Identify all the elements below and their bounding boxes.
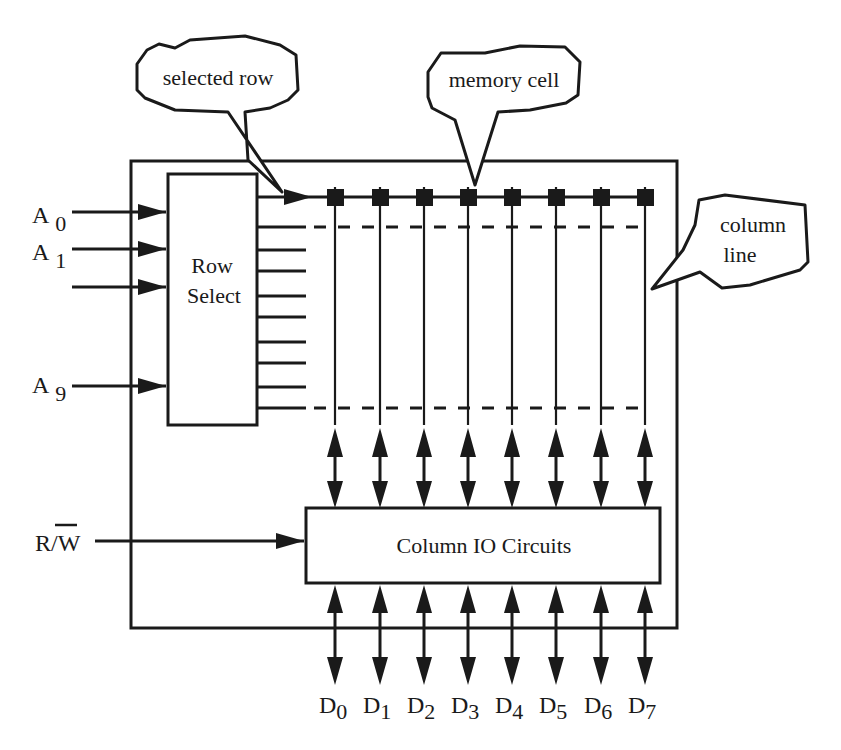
bidir-arrow-icon bbox=[460, 585, 476, 685]
arrow-icon bbox=[138, 204, 166, 220]
bidir-arrow-icon bbox=[327, 585, 343, 685]
bidir-arrow-icon bbox=[548, 585, 564, 685]
address-label-a9: A9 bbox=[32, 372, 66, 406]
bidir-arrow-icon bbox=[637, 585, 653, 685]
column-io-block: Column IO Circuits bbox=[306, 508, 660, 583]
bidir-arrow-icon bbox=[504, 585, 520, 685]
row-select-block: Row Select bbox=[168, 174, 257, 425]
address-inputs: A0 A1 A9 bbox=[32, 202, 166, 406]
column-0 bbox=[327, 187, 344, 425]
column-io-label: Column IO Circuits bbox=[397, 533, 572, 558]
column-lines bbox=[327, 187, 654, 425]
arrow-icon bbox=[138, 241, 166, 257]
data-label-d3: D3 bbox=[451, 692, 479, 724]
data-label-d0: D0 bbox=[319, 692, 347, 724]
bidir-arrow-icon bbox=[327, 428, 343, 508]
bidir-arrow-icon bbox=[593, 585, 609, 685]
array-io-arrows bbox=[327, 428, 653, 508]
data-label-d5: D5 bbox=[539, 692, 567, 724]
callout-column-line: column line bbox=[652, 195, 808, 289]
arrow-icon bbox=[138, 378, 166, 394]
memory-cell-icon bbox=[504, 189, 521, 206]
row-select-label-2: Select bbox=[187, 283, 241, 308]
data-label-d1: D1 bbox=[363, 692, 391, 724]
data-label-d4: D4 bbox=[495, 692, 523, 724]
bidir-arrow-icon bbox=[372, 585, 388, 685]
column-7 bbox=[637, 187, 654, 425]
callout-column-line-text-1: column bbox=[720, 212, 786, 237]
memory-cell-icon bbox=[372, 189, 389, 206]
callout-selected-row: selected row bbox=[137, 36, 298, 192]
bidir-arrow-icon bbox=[372, 428, 388, 508]
bidir-arrow-icon bbox=[416, 585, 432, 685]
memory-cell-icon bbox=[327, 189, 344, 206]
address-label-a0: A0 bbox=[32, 202, 66, 236]
callout-memory-cell-text: memory cell bbox=[449, 67, 560, 92]
memory-cell-icon bbox=[548, 189, 565, 206]
column-5 bbox=[548, 187, 565, 425]
callout-memory-cell: memory cell bbox=[428, 46, 580, 185]
data-label-d6: D6 bbox=[584, 692, 612, 724]
memory-cell-icon bbox=[416, 189, 433, 206]
memory-cell-icon bbox=[460, 189, 477, 206]
row-lines bbox=[257, 189, 647, 408]
data-label-d7: D7 bbox=[628, 692, 656, 724]
callout-selected-row-text: selected row bbox=[163, 65, 274, 90]
data-arrows bbox=[327, 585, 653, 685]
address-label-a1: A1 bbox=[32, 239, 66, 273]
selected-row-arrow-icon bbox=[284, 189, 312, 205]
data-label-d2: D2 bbox=[407, 692, 435, 724]
column-1 bbox=[372, 187, 389, 425]
column-6 bbox=[593, 187, 610, 425]
bidir-arrow-icon bbox=[460, 428, 476, 508]
rw-label: R/W bbox=[35, 530, 81, 556]
memory-diagram: Row Select A0 A1 A9 bbox=[0, 0, 841, 750]
memory-cell-icon bbox=[593, 189, 610, 206]
bidir-arrow-icon bbox=[504, 428, 520, 508]
data-labels: D0 D1 D2 D3 D4 D5 D6 D7 bbox=[319, 692, 656, 724]
bidir-arrow-icon bbox=[593, 428, 609, 508]
bidir-arrow-icon bbox=[548, 428, 564, 508]
rw-input: R/W bbox=[35, 525, 304, 556]
bidir-arrow-icon bbox=[637, 428, 653, 508]
column-3 bbox=[460, 187, 477, 425]
memory-cell-icon bbox=[637, 189, 654, 206]
arrow-icon bbox=[138, 279, 166, 295]
column-2 bbox=[416, 187, 433, 425]
row-select-label-1: Row bbox=[191, 253, 233, 278]
arrow-icon bbox=[276, 533, 304, 549]
column-4 bbox=[504, 187, 521, 425]
bidir-arrow-icon bbox=[416, 428, 432, 508]
callout-column-line-text-2: line bbox=[724, 242, 757, 267]
